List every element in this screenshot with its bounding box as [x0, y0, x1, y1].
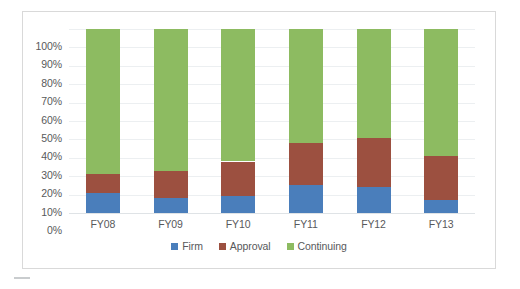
- y-axis-tick-label: 40%: [41, 150, 62, 162]
- bar-group-fy13[interactable]: [424, 29, 458, 213]
- legend-swatch-icon: [171, 243, 178, 250]
- bar-group-fy11[interactable]: [289, 29, 323, 213]
- legend-swatch-icon: [287, 243, 294, 250]
- legend-label: Continuing: [298, 240, 347, 252]
- x-axis-tick-label: FY09: [141, 218, 201, 230]
- y-axis: 0%10%20%30%40%50%60%70%80%90%100%: [23, 29, 67, 213]
- plot-area: [69, 29, 475, 213]
- gridline: [69, 176, 475, 177]
- y-axis-tick-label: 50%: [41, 132, 62, 144]
- gridline: [69, 103, 475, 104]
- bar-group-fy08[interactable]: [86, 29, 120, 213]
- bar-segment-approval[interactable]: [154, 171, 188, 199]
- y-axis-tick-label: 90%: [41, 58, 62, 70]
- bar-group-fy09[interactable]: [154, 29, 188, 213]
- gridline: [69, 195, 475, 196]
- bar-segment-continuing[interactable]: [357, 29, 391, 138]
- legend-item-firm[interactable]: Firm: [171, 240, 203, 252]
- chart-frame: 0%10%20%30%40%50%60%70%80%90%100% FY08FY…: [22, 11, 496, 269]
- legend-label: Approval: [230, 240, 271, 252]
- bar-group-fy12[interactable]: [357, 29, 391, 213]
- x-axis-tick-label: FY13: [411, 218, 471, 230]
- y-axis-tick-label: 100%: [36, 40, 62, 52]
- y-axis-tick-label: 0%: [47, 224, 62, 236]
- bar-segment-continuing[interactable]: [221, 29, 255, 161]
- scan-artifact: [14, 277, 30, 279]
- bar-segment-approval[interactable]: [357, 138, 391, 188]
- x-axis: FY08FY09FY10FY11FY12FY13: [69, 218, 475, 238]
- bar-segment-continuing[interactable]: [86, 29, 120, 174]
- bar-segment-approval[interactable]: [221, 162, 255, 197]
- bar-segment-firm[interactable]: [357, 187, 391, 213]
- gridline: [69, 47, 475, 48]
- y-axis-tick-label: 60%: [41, 114, 62, 126]
- bar-segment-firm[interactable]: [289, 185, 323, 213]
- legend-swatch-icon: [219, 243, 226, 250]
- gridline: [69, 29, 475, 30]
- bar-segment-firm[interactable]: [86, 193, 120, 213]
- bar-segment-firm[interactable]: [424, 200, 458, 213]
- x-axis-tick-label: FY11: [276, 218, 336, 230]
- legend-label: Firm: [182, 240, 203, 252]
- y-axis-tick-label: 10%: [41, 206, 62, 218]
- gridline: [69, 139, 475, 140]
- y-axis-tick-label: 20%: [41, 187, 62, 199]
- gridline: [69, 158, 475, 159]
- x-axis-tick-label: FY10: [208, 218, 268, 230]
- bar-segment-approval[interactable]: [424, 156, 458, 200]
- bar-segment-continuing[interactable]: [424, 29, 458, 156]
- gridline: [69, 84, 475, 85]
- bar-segment-continuing[interactable]: [289, 29, 323, 143]
- bar-group-fy10[interactable]: [221, 29, 255, 213]
- y-axis-tick-label: 80%: [41, 77, 62, 89]
- bar-segment-approval[interactable]: [86, 174, 120, 192]
- y-axis-tick-label: 70%: [41, 95, 62, 107]
- gridline: [69, 213, 475, 214]
- x-axis-tick-label: FY12: [344, 218, 404, 230]
- bar-segment-approval[interactable]: [289, 143, 323, 185]
- y-axis-tick-label: 30%: [41, 169, 62, 181]
- bar-segment-firm[interactable]: [221, 196, 255, 213]
- legend-item-continuing[interactable]: Continuing: [287, 240, 347, 252]
- gridline: [69, 121, 475, 122]
- bar-segment-firm[interactable]: [154, 198, 188, 213]
- bar-segment-continuing[interactable]: [154, 29, 188, 171]
- legend-item-approval[interactable]: Approval: [219, 240, 271, 252]
- gridline: [69, 66, 475, 67]
- chart-legend: FirmApprovalContinuing: [23, 240, 495, 252]
- x-axis-tick-label: FY08: [73, 218, 133, 230]
